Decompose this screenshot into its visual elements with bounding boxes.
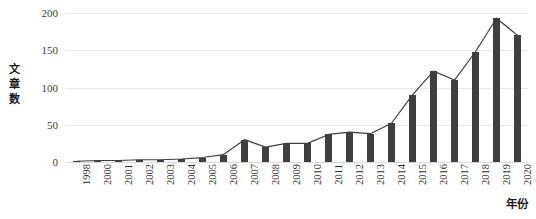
y-tick-label: 150 — [0, 44, 58, 56]
x-tick-label: 2011 — [333, 164, 344, 185]
y-tick-label: 200 — [0, 7, 58, 19]
x-tick-label: 2005 — [207, 164, 218, 185]
x-tick-label: 2014 — [396, 164, 407, 185]
x-tick-label: 2020 — [522, 164, 533, 185]
x-tick-label: 2004 — [186, 164, 197, 185]
x-tick-label: 2001 — [123, 164, 134, 185]
x-tick-label: 2002 — [144, 164, 155, 185]
plot-area — [66, 13, 528, 162]
trend-line — [77, 18, 518, 161]
x-axis-title: 年份 — [506, 195, 528, 211]
x-tick-label: 2007 — [249, 164, 260, 185]
x-tick-label: 2017 — [459, 164, 470, 185]
x-tick-label: 2013 — [375, 164, 386, 185]
x-tick-label: 2018 — [480, 164, 491, 185]
y-tick-label: 100 — [0, 82, 58, 94]
y-tick-label: 0 — [0, 156, 58, 168]
y-tick-label: 50 — [0, 119, 58, 131]
x-tick-label: 2000 — [102, 164, 113, 185]
x-tick-label: 2003 — [165, 164, 176, 185]
x-tick-label: 2019 — [501, 164, 512, 185]
line-series — [66, 13, 528, 162]
x-axis-tick-labels: 1998200020012002200320042005200620072008… — [66, 164, 528, 204]
x-tick-label: 2012 — [354, 164, 365, 185]
x-tick-label: 2015 — [417, 164, 428, 185]
y-axis-tick-labels: 050100150200 — [0, 0, 58, 219]
x-tick-label: 2006 — [228, 164, 239, 185]
x-tick-label: 2010 — [312, 164, 323, 185]
x-tick-label: 2016 — [438, 164, 449, 185]
axis-baseline — [66, 162, 528, 163]
x-tick-label: 2008 — [270, 164, 281, 185]
article-count-by-year-chart: 文 章 数 050100150200 199820002001200220032… — [0, 0, 536, 219]
x-tick-label: 2009 — [291, 164, 302, 185]
x-tick-label: 1998 — [81, 164, 92, 185]
